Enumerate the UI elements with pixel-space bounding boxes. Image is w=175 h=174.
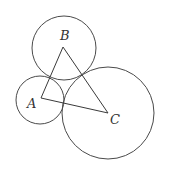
circle-a bbox=[16, 76, 64, 124]
label-c: C bbox=[110, 112, 120, 127]
circles-group bbox=[16, 16, 154, 159]
triangle-edges bbox=[41, 47, 108, 113]
edge-ab bbox=[41, 47, 63, 98]
edge-bc bbox=[63, 47, 108, 113]
label-a: A bbox=[26, 96, 36, 111]
triangle-circles-diagram: B A C bbox=[0, 0, 175, 174]
label-b: B bbox=[59, 28, 70, 43]
edge-ca bbox=[41, 98, 108, 113]
